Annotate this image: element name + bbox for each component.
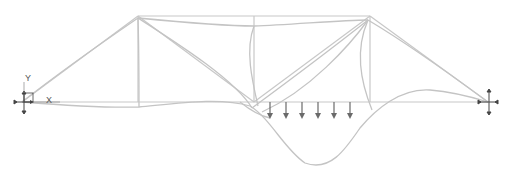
member-bottom-mid-top-right: [254, 16, 370, 102]
truss-diagram: [0, 0, 514, 174]
arrow-down-icon: [347, 113, 353, 119]
arrow-down-icon: [299, 113, 305, 119]
deformed-shape: [22, 18, 488, 165]
left-support-symbol: [14, 82, 60, 114]
distributed-load: [267, 102, 353, 119]
y-axis-label: Y: [25, 73, 31, 83]
right-support-symbol: [478, 89, 498, 115]
arrow-down-icon: [283, 113, 289, 119]
undeformed-truss: [22, 16, 488, 102]
x-axis-label: X: [46, 95, 52, 105]
arrow-down-icon: [331, 113, 337, 119]
deformed-diagonal-right-2: [262, 20, 368, 112]
deformed-diagonal-right: [252, 20, 368, 108]
deformed-diagonal-left: [138, 18, 252, 108]
deformed-top-chord: [138, 18, 368, 26]
arrow-down-icon: [315, 113, 321, 119]
